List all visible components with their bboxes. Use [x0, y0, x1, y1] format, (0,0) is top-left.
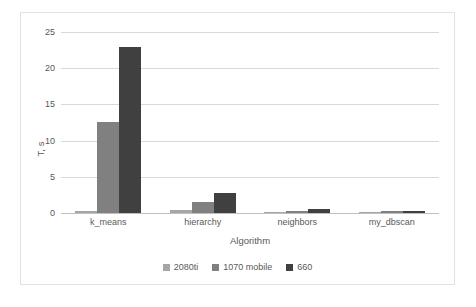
legend-label: 660	[297, 262, 312, 272]
axis-baseline: 0	[61, 213, 439, 214]
x-axis-tick-label: hierarchy	[156, 217, 251, 227]
bar	[97, 122, 119, 213]
x-axis-tick-label: k_means	[61, 217, 156, 227]
y-axis-tick-label: 0	[50, 208, 55, 218]
bar	[192, 202, 214, 213]
chart-legend: 2080ti1070 mobile660	[21, 262, 454, 272]
legend-swatch-icon	[212, 264, 219, 271]
bar-group	[250, 32, 345, 213]
legend-swatch-icon	[163, 264, 170, 271]
y-axis-tick-label: 25	[45, 27, 55, 37]
bar	[119, 47, 141, 213]
plot-area: 0510152025	[61, 32, 439, 213]
legend-item[interactable]: 2080ti	[163, 262, 199, 272]
y-axis-tick-label: 15	[45, 99, 55, 109]
bar	[75, 211, 97, 213]
y-axis-tick-label: 5	[50, 172, 55, 182]
bar	[286, 211, 308, 213]
bar	[214, 193, 236, 213]
bar	[403, 211, 425, 213]
legend-label: 1070 mobile	[223, 262, 272, 272]
x-axis-title: Algorithm	[61, 235, 439, 246]
bar-group	[345, 32, 440, 213]
bar	[264, 212, 286, 213]
bar	[170, 210, 192, 213]
x-axis-tick-label: neighbors	[250, 217, 345, 227]
bar	[359, 212, 381, 213]
bar	[381, 211, 403, 213]
y-axis-tick-label: 20	[45, 63, 55, 73]
bar-group	[61, 32, 156, 213]
x-axis-tick-label: my_dbscan	[345, 217, 440, 227]
chart-frame: T, s 0510152025 k_meanshierarchyneighbor…	[20, 12, 455, 285]
y-axis-tick-label: 10	[45, 136, 55, 146]
legend-item[interactable]: 660	[286, 262, 312, 272]
legend-item[interactable]: 1070 mobile	[212, 262, 272, 272]
bars-layer	[61, 32, 439, 213]
legend-label: 2080ti	[174, 262, 199, 272]
legend-swatch-icon	[286, 264, 293, 271]
bar-group	[156, 32, 251, 213]
x-axis-tick-labels: k_meanshierarchyneighborsmy_dbscan	[61, 217, 439, 227]
bar	[308, 209, 330, 213]
